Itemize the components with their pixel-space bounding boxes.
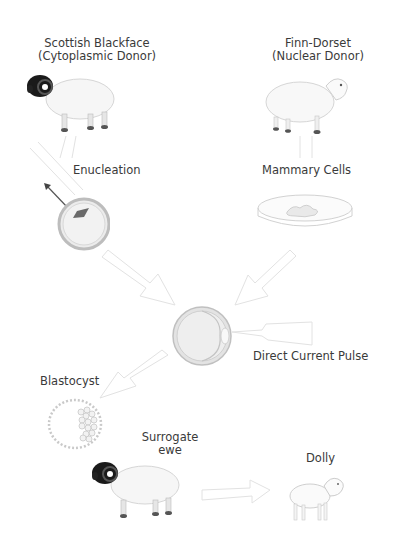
egg-cell-with-pipette-icon <box>40 180 110 260</box>
surrogate-sheep-icon <box>91 460 186 522</box>
petri-dish-icon <box>255 190 355 235</box>
fused-egg-cell-icon <box>172 303 236 369</box>
blastocyst-label: Blastocyst <box>40 375 99 388</box>
dolly-label: Dolly <box>306 452 335 465</box>
direct-current-pulse-label: Direct Current Pulse <box>253 350 368 363</box>
surrogate-ewe-label: Surrogate ewe <box>140 431 200 457</box>
process-arrows <box>0 0 410 550</box>
surrogate-label-line2: ewe <box>140 444 200 457</box>
blastocyst-icon <box>47 398 107 450</box>
lamb-icon <box>286 474 350 526</box>
